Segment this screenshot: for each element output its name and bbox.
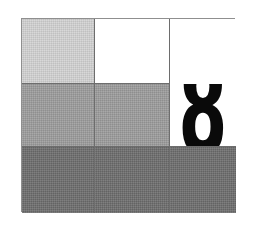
tonal-grid: 8 bbox=[21, 18, 235, 212]
grid-cell-r3c2 bbox=[95, 147, 170, 213]
grid-cell-r1c2 bbox=[95, 19, 170, 84]
grid-cell-r3c3 bbox=[170, 147, 236, 213]
grid-cell-r3c1 bbox=[22, 147, 95, 213]
grid-cell-r2c2 bbox=[95, 84, 170, 147]
grid-cell-r1c1 bbox=[22, 19, 95, 84]
grid-cell-r2c1 bbox=[22, 84, 95, 147]
numeral-eight-icon: 8 bbox=[175, 84, 231, 147]
image-canvas: 8 bbox=[0, 0, 256, 225]
numeral-eight-text: 8 bbox=[178, 84, 227, 147]
grid-cell-r1c3 bbox=[170, 19, 236, 84]
numeral-container: 8 bbox=[170, 84, 236, 146]
grid-cell-r2c3: 8 bbox=[170, 84, 236, 147]
